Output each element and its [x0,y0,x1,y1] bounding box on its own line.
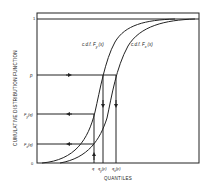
xtick-qx-p: qx(p) [112,166,121,173]
ytick-p: p [29,73,33,78]
y-axis-title: CUMULATIVE DISTRIBUTION FUNCTION [13,50,18,146]
curve-label-y: c.d.f. Fy(x) [82,42,104,49]
cdf-curve-x [60,19,195,163]
ytick-fy-q: Fy(q) [24,112,34,119]
x-axis-title: QUANTILES [104,176,132,181]
xtick-qy-p: qy(p) [98,166,107,173]
ytick-fx-q: Fx(q) [24,142,34,149]
ytick-1: 1 [33,16,36,21]
ytick-0: 0 [31,161,34,166]
cdf-quantile-diagram: c.d.f. Fy(x) c.d.f. Fx(x) 1 p Fy(q) Fx(q… [0,0,207,189]
plot-frame [37,13,199,163]
xtick-q: q [92,166,95,171]
curve-label-x: c.d.f. Fx(x) [131,42,153,49]
cdf-curve-y [42,19,175,163]
